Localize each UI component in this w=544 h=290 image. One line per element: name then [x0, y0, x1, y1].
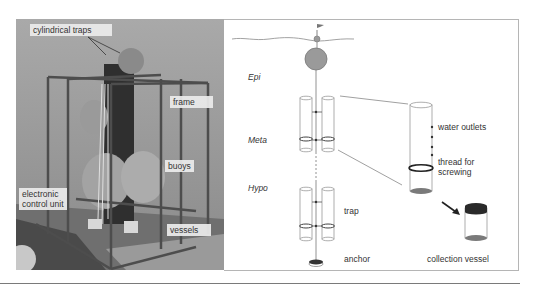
water-outlet	[431, 146, 433, 148]
figure: cylindrical traps frame buoys electronic…	[16, 19, 519, 270]
zone-label-hypo: Hypo	[248, 183, 268, 193]
sediment-trap-photo: cylindrical traps frame buoys electronic…	[16, 19, 224, 270]
collection-vessel-illustration	[465, 203, 487, 241]
anchor	[309, 260, 323, 265]
label-buoys: buoys	[165, 160, 194, 172]
label-collection-vessel: collection vessel	[427, 254, 489, 264]
label-trap: trap	[344, 206, 359, 216]
water-outlet	[431, 154, 433, 156]
zone-label-meta: Meta	[248, 135, 267, 145]
label-vessels: vessels	[167, 224, 211, 236]
trap-pair-hypo	[300, 187, 334, 241]
enlarged-trap-cylinder	[409, 102, 433, 194]
label-frame: frame	[170, 96, 213, 108]
horizontal-rule	[0, 283, 520, 284]
buoy	[305, 48, 327, 70]
label-thread-line1: thread for	[438, 157, 474, 167]
label-ecu-line1: electronic	[22, 189, 64, 199]
water-outlet	[431, 126, 433, 128]
trap-pair-meta	[300, 96, 334, 152]
trap-schematic	[224, 20, 518, 270]
arrow-icon	[442, 202, 460, 215]
label-cylindrical-traps: cylindrical traps	[30, 24, 112, 36]
label-electronic-control-unit: electronic control unit	[19, 188, 67, 210]
label-thread-line2: screwing	[438, 167, 474, 177]
surface-float	[314, 36, 320, 42]
zone-label-epi: Epi	[248, 72, 260, 82]
label-ecu-line2: control unit	[22, 199, 64, 209]
water-surface-line	[232, 38, 354, 41]
label-water-outlets: water outlets	[438, 122, 486, 132]
label-anchor: anchor	[344, 254, 370, 264]
flag-icon	[317, 24, 324, 28]
label-thread-for-screwing: thread for screwing	[438, 157, 474, 177]
trap-schematic-panel: Epi Meta Hypo water outlets thread for s…	[224, 19, 519, 271]
sediment	[410, 188, 432, 194]
water-outlet	[431, 136, 433, 138]
